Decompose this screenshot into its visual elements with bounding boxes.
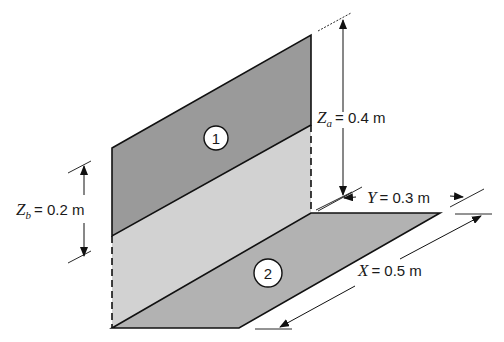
zb-dimension: Zb= 0.2 m [16,161,91,263]
surface-1-label: 1 [204,126,228,150]
surface-2-label: 2 [254,259,282,287]
svg-text:1: 1 [212,130,220,147]
svg-text:2: 2 [264,265,272,282]
za-label: Za= 0.4 m [317,108,385,129]
x-label: X= 0.5 m [357,261,422,280]
zb-label: Zb= 0.2 m [16,200,84,221]
y-label: Y= 0.3 m [367,188,430,207]
za-dimension: Za= 0.4 m [316,13,385,210]
diagram-canvas: 1 2 Za= 0.4 m Zb= 0.2 m Y= 0.3 m [0,0,504,342]
